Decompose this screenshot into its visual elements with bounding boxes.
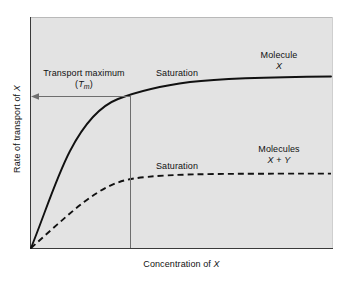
- transport-maximum-line2: (Tm): [34, 79, 134, 92]
- curve-layer: [0, 0, 348, 285]
- saturation-label-upper: Saturation: [156, 68, 198, 79]
- tm-paren-close: ): [90, 79, 93, 89]
- x-axis-title: Concentration of X: [31, 259, 332, 269]
- transport-maximum-arrow: [31, 93, 130, 100]
- transport-maximum-line1: Transport maximum: [34, 68, 134, 79]
- series-label-molecules-xy-line2: X + Y: [246, 155, 312, 166]
- series-label-molecule-x: Molecule X: [248, 50, 310, 72]
- saturation-label-lower: Saturation: [156, 161, 198, 172]
- curve-molecules-xy: [31, 174, 331, 248]
- transport-saturation-chart: Rate of transport of X Concentration of …: [0, 0, 348, 285]
- molecules-xy-y: Y: [284, 155, 290, 165]
- x-axis-title-variable: X: [214, 259, 220, 269]
- transport-maximum-label: Transport maximum (Tm): [34, 68, 134, 92]
- x-axis-title-text: Concentration of: [143, 259, 213, 269]
- y-axis-title-text: Rate of transport of: [12, 91, 22, 173]
- series-label-molecules-xy: Molecules X + Y: [246, 144, 312, 166]
- y-axis-title: Rate of transport of X: [12, 49, 22, 209]
- molecules-xy-plus: +: [274, 155, 285, 165]
- series-label-molecules-xy-line1: Molecules: [246, 144, 312, 155]
- series-label-molecule-x-line1: Molecule: [248, 50, 310, 61]
- series-label-molecule-x-line2: X: [248, 61, 310, 72]
- y-axis-title-variable: X: [12, 85, 22, 91]
